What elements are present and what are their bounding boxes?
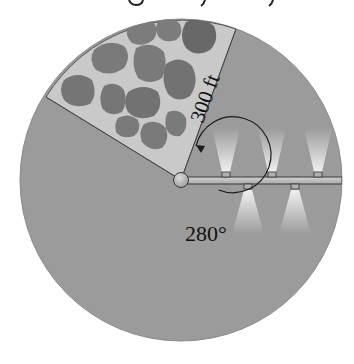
rock bbox=[61, 75, 95, 106]
sprinkler-head bbox=[222, 172, 230, 177]
rock bbox=[125, 87, 160, 118]
rock bbox=[100, 84, 125, 115]
rock bbox=[163, 59, 195, 99]
sprinkler-head bbox=[314, 172, 322, 177]
rock bbox=[182, 20, 216, 54]
cropped-title-fragment bbox=[129, 0, 273, 6]
rock bbox=[115, 115, 139, 137]
sprinkler-field-diagram: 300 ft 280° bbox=[0, 0, 354, 364]
rock bbox=[156, 18, 181, 41]
sprinkler-pipe bbox=[186, 177, 342, 184]
center-pivot bbox=[174, 173, 189, 188]
angle-label: 280° bbox=[185, 221, 227, 246]
sprinkler-head bbox=[268, 172, 276, 177]
rock bbox=[133, 45, 165, 82]
sprinkler-head bbox=[291, 184, 299, 189]
